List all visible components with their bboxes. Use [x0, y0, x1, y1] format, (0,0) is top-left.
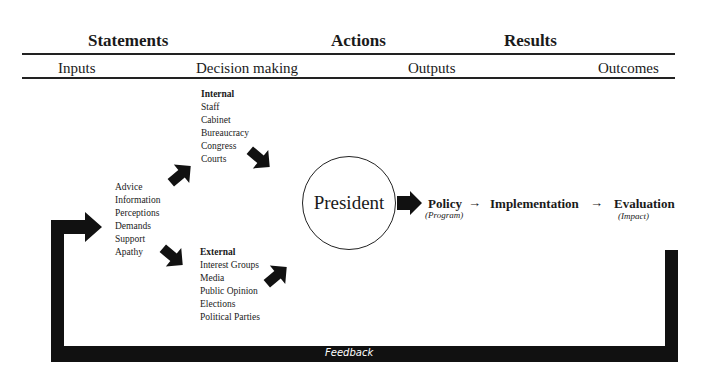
list-item: Perceptions	[115, 207, 160, 220]
arrow-policy-to-implementation-icon: →	[468, 195, 481, 211]
list-item: Apathy	[115, 246, 160, 259]
inputs-list: Advice Information Perceptions Demands S…	[115, 181, 160, 259]
list-item: Elections	[200, 298, 260, 311]
feedback-label: Feedback	[325, 347, 373, 358]
subheader-inputs: Inputs	[58, 60, 96, 77]
implementation-label: Implementation	[490, 196, 579, 212]
header-rule-bottom	[22, 77, 675, 79]
list-item: Courts	[201, 153, 249, 166]
external-title: External	[200, 246, 260, 259]
arrow-inputs-to-internal-icon	[163, 157, 198, 192]
list-item: Interest Groups	[200, 259, 260, 272]
list-item: Public Opinion	[200, 285, 260, 298]
arrow-external-to-president-icon	[259, 258, 294, 293]
header-rule-top	[22, 53, 675, 55]
list-item: Staff	[201, 101, 249, 114]
arrow-inputs-to-external-icon	[155, 239, 190, 274]
list-item: Cabinet	[201, 114, 249, 127]
list-item: Media	[200, 272, 260, 285]
list-item: Advice	[115, 181, 160, 194]
list-item: Bureaucracy	[201, 127, 249, 140]
evaluation-note: (Impact)	[618, 211, 649, 221]
list-item: Demands	[115, 220, 160, 233]
internal-title: Internal	[201, 88, 249, 101]
policy-note: (Program)	[425, 210, 463, 220]
list-item: Political Parties	[200, 311, 260, 324]
list-item: Information	[115, 194, 160, 207]
arrow-president-to-policy-icon	[397, 191, 422, 215]
list-item: Congress	[201, 140, 249, 153]
header-statements: Statements	[88, 31, 168, 51]
evaluation-label: Evaluation	[614, 196, 675, 212]
president-node: President	[302, 156, 396, 250]
subheader-outcomes: Outcomes	[598, 60, 659, 77]
header-results: Results	[504, 31, 557, 51]
arrow-implementation-to-evaluation-icon: →	[590, 195, 603, 211]
subheader-outputs: Outputs	[408, 60, 456, 77]
subheader-decision-making: Decision making	[196, 60, 298, 77]
list-item: Support	[115, 233, 160, 246]
external-list: External Interest Groups Media Public Op…	[200, 246, 260, 324]
header-actions: Actions	[331, 31, 386, 51]
president-label: President	[314, 192, 385, 214]
internal-list: Internal Staff Cabinet Bureaucracy Congr…	[201, 88, 249, 166]
